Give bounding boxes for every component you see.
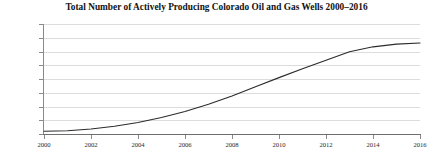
- x-tick-mark: [420, 135, 421, 139]
- x-tick-mark: [185, 135, 186, 139]
- x-tick-label: 2012: [306, 141, 346, 148]
- x-tick-label: 2014: [353, 141, 393, 148]
- x-tick-mark: [279, 135, 280, 139]
- y-tick-mark: [39, 38, 43, 39]
- gridline: [44, 120, 420, 121]
- x-tick-mark: [373, 135, 374, 139]
- x-tick-mark: [44, 135, 45, 139]
- gridline: [44, 24, 420, 25]
- x-tick-label: 2006: [165, 141, 205, 148]
- y-tick-mark: [39, 24, 43, 25]
- gridline: [44, 52, 420, 53]
- gridline: [44, 107, 420, 108]
- x-tick-mark: [326, 135, 327, 139]
- y-tick-mark: [39, 107, 43, 108]
- y-tick-mark: [39, 134, 43, 135]
- y-tick-mark: [39, 120, 43, 121]
- chart-figure: Total Number of Actively Producing Color…: [0, 0, 433, 155]
- x-tick-mark: [138, 135, 139, 139]
- y-tick-mark: [39, 93, 43, 94]
- x-tick-label: 2002: [71, 141, 111, 148]
- x-tick-mark: [232, 135, 233, 139]
- x-tick-mark: [91, 135, 92, 139]
- y-axis-line: [43, 24, 44, 135]
- gridline: [44, 38, 420, 39]
- y-tick-mark: [39, 79, 43, 80]
- x-tick-label: 2010: [259, 141, 299, 148]
- plot-area: [44, 24, 420, 134]
- x-tick-label: 2004: [118, 141, 158, 148]
- x-tick-label: 2000: [24, 141, 64, 148]
- gridline: [44, 93, 420, 94]
- gridline: [44, 79, 420, 80]
- y-tick-mark: [39, 65, 43, 66]
- gridline: [44, 65, 420, 66]
- y-tick-mark: [39, 52, 43, 53]
- x-tick-label: 2008: [212, 141, 252, 148]
- chart-title: Total Number of Actively Producing Color…: [0, 2, 433, 12]
- x-tick-label: 2016: [400, 141, 433, 148]
